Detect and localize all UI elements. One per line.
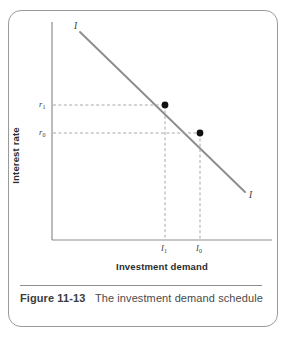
x-tick-label-i0-subscript: 0 <box>199 248 202 254</box>
x-tick-label-i1: I1 <box>161 243 167 253</box>
figure-caption-number: Figure 11-13 <box>20 292 85 304</box>
y-tick-label-r1-subscript: 1 <box>43 104 46 110</box>
x-tick-label-i1-subscript: 1 <box>164 248 167 254</box>
y-tick-label-r0: r0 <box>39 127 45 137</box>
curve-label-upper: I <box>74 21 77 31</box>
curve-label-lower: I <box>249 190 252 200</box>
figure-caption-text: The investment demand schedule <box>95 292 263 304</box>
figure-frame <box>8 10 278 327</box>
x-tick-label-i0: I0 <box>196 243 202 253</box>
caption-divider <box>20 285 262 286</box>
y-tick-label-r1: r1 <box>39 99 45 109</box>
y-tick-label-r0-base: r <box>39 127 42 137</box>
y-axis-title: Interest rate <box>10 116 21 196</box>
y-tick-label-r0-subscript: 0 <box>43 132 46 138</box>
figure-caption: Figure 11-13 The investment demand sched… <box>20 291 264 306</box>
y-tick-label-r1-base: r <box>39 99 42 109</box>
x-axis-title: Investment demand <box>52 261 272 272</box>
